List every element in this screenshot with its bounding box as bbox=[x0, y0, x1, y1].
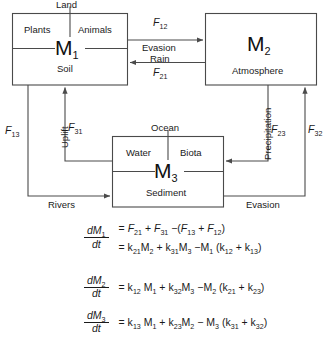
box-m3-biota-label: Biota bbox=[180, 148, 202, 158]
box-m1-header-label: Land bbox=[56, 0, 77, 10]
equation-m2-lhs: dM2 dt bbox=[84, 275, 109, 300]
box-m1-mass-letter: M bbox=[55, 36, 73, 59]
equation-m1-numerator: dM1 bbox=[84, 225, 109, 237]
carbon-cycle-diagram: Land Plants Animals M1 Soil M2 Atmospher… bbox=[0, 0, 327, 348]
box-m3-header-label: Ocean bbox=[151, 123, 179, 133]
box-m3-mass-letter: M bbox=[154, 159, 172, 182]
flux-label-f32: F32 bbox=[308, 124, 322, 135]
flux-label-f13: F13 bbox=[5, 125, 19, 136]
flux-f23-subscript: 23 bbox=[277, 130, 285, 138]
process-label-evasion-land-atmosphere: Evasion bbox=[142, 43, 176, 53]
flux-f32-subscript: 32 bbox=[314, 130, 322, 138]
box-m2-mass-subscript: 2 bbox=[265, 45, 271, 57]
equation-m1-denominator: dt bbox=[84, 238, 109, 250]
box-m2-mass-symbol: M2 bbox=[247, 33, 271, 54]
equation-m2-line1: = k12 M1 + k32M3 −M2 (k21 + k23) bbox=[119, 281, 265, 293]
equation-m2-numerator: dM2 bbox=[84, 275, 109, 287]
process-label-evasion-ocean-atmosphere: Evasion bbox=[246, 200, 280, 210]
box-m3-mass-symbol: M3 bbox=[154, 160, 178, 181]
equation-m3: dM3 dt = k13 M1 + k23M2 − M3 (k31 + k32) bbox=[84, 310, 267, 335]
flux-label-f31: F31 bbox=[68, 122, 82, 133]
box-m3-sediment-label: Sediment bbox=[146, 188, 186, 198]
flux-label-f23: F23 bbox=[271, 124, 285, 135]
equation-m3-numerator: dM3 bbox=[84, 310, 109, 322]
process-label-rivers: Rivers bbox=[48, 200, 75, 210]
box-m1-mass-subscript: 1 bbox=[73, 49, 79, 61]
equation-m2: dM2 dt = k12 M1 + k32M3 −M2 (k21 + k23) bbox=[84, 275, 264, 300]
flux-label-f12: F12 bbox=[153, 17, 167, 28]
box-m1-mass-symbol: M1 bbox=[55, 37, 79, 58]
box-m1-animals-label: Animals bbox=[78, 25, 112, 35]
flux-f13-subscript: 13 bbox=[11, 131, 19, 139]
equation-m3-denominator: dt bbox=[84, 323, 109, 335]
box-m3-mass-subscript: 3 bbox=[172, 172, 178, 184]
equation-m1-line2: = k21M2 + k31M3 −M1 (k12 + k13) bbox=[119, 241, 262, 253]
box-m3-water-label: Water bbox=[126, 148, 151, 158]
box-m1-plants-label: Plants bbox=[24, 25, 50, 35]
flux-f21-subscript: 21 bbox=[159, 73, 167, 81]
flux-label-f21: F21 bbox=[153, 67, 167, 78]
equation-m2-denominator: dt bbox=[84, 288, 109, 300]
equation-m3-lhs: dM3 dt bbox=[84, 310, 109, 335]
process-label-rain: Rain bbox=[150, 54, 170, 64]
box-m2-mass-letter: M bbox=[247, 32, 265, 55]
box-m2-atmosphere-label: Atmosphere bbox=[232, 66, 283, 76]
equation-m1: dM1 dt = F21 + F31 −(F13 + F12) = k21M2 … bbox=[84, 222, 261, 253]
flux-f12-subscript: 12 bbox=[159, 23, 167, 31]
flux-f31-subscript: 31 bbox=[74, 128, 82, 136]
box-m1-soil-label: Soil bbox=[57, 64, 73, 74]
equation-m1-lhs: dM1 dt bbox=[84, 225, 109, 250]
equation-m3-line1: = k13 M1 + k23M2 − M3 (k31 + k32) bbox=[119, 316, 268, 328]
equation-m1-line1: = F21 + F31 −(F13 + F12) bbox=[119, 222, 262, 234]
